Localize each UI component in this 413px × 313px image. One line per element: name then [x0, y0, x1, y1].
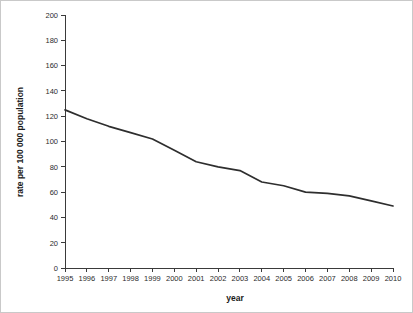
x-tick-label: 2001: [188, 274, 205, 283]
x-axis-title: year: [226, 293, 244, 303]
y-tick-label: 80: [50, 163, 58, 172]
x-tick-label: 2009: [363, 274, 380, 283]
chart-figure: 020406080100120140160180200 199519961997…: [0, 0, 413, 313]
x-tick-label: 2007: [319, 274, 336, 283]
line-chart: 020406080100120140160180200 199519961997…: [1, 1, 413, 313]
y-tick-label: 40: [50, 213, 58, 222]
x-tick-label: 2006: [297, 274, 314, 283]
x-tick-label: 1995: [57, 274, 74, 283]
x-tick-label: 1998: [122, 274, 139, 283]
x-tick-label: 1997: [100, 274, 117, 283]
x-tick-label: 2008: [341, 274, 358, 283]
x-tick-label: 2004: [253, 274, 270, 283]
y-tick-label: 160: [45, 61, 58, 70]
x-tick-label: 1996: [79, 274, 96, 283]
y-tick-label: 120: [45, 112, 58, 121]
data-series-line: [65, 110, 393, 206]
y-tick-label: 60: [50, 188, 58, 197]
y-tick-label: 0: [54, 264, 58, 273]
y-tick-label: 140: [45, 87, 58, 96]
x-tick-label: 2003: [232, 274, 249, 283]
y-tick-label: 20: [50, 239, 58, 248]
x-tick-label: 2000: [166, 274, 183, 283]
x-tick-label: 2010: [385, 274, 402, 283]
x-tick-label: 1999: [144, 274, 161, 283]
y-tick-label: 180: [45, 36, 58, 45]
y-axis-title: rate per 100 000 population: [15, 87, 25, 197]
x-axis-ticks: 1995199619971998199920002001200220032004…: [57, 268, 402, 283]
y-tick-label: 200: [45, 11, 58, 20]
y-axis-ticks: 020406080100120140160180200: [45, 11, 65, 273]
x-tick-label: 2005: [275, 274, 292, 283]
x-tick-label: 2002: [210, 274, 227, 283]
y-tick-label: 100: [45, 137, 58, 146]
